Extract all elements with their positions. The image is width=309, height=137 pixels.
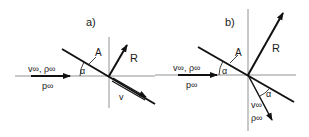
panel-a: a) v∞, ρ∞ p∞ A α R v	[15, 16, 155, 108]
angle-label: α	[80, 66, 85, 76]
plate-label: A	[235, 47, 242, 58]
plate-leader	[89, 57, 96, 64]
freestream-velocity-density-label: v∞, ρ∞	[28, 64, 55, 74]
angle-label: α	[222, 66, 227, 76]
panel-b-label: b)	[225, 16, 235, 28]
outflow-density-label: ρ∞	[251, 113, 263, 123]
freestream-pressure-label: p∞	[42, 81, 53, 91]
panel-b: b) v∞, ρ∞ p∞ A α α R v∞ ρ∞	[155, 9, 296, 131]
velocity-arrow-line	[112, 81, 145, 100]
outflow-velocity-label: v∞	[251, 100, 262, 110]
plate-label: A	[95, 47, 102, 58]
velocity-label: v	[119, 92, 124, 102]
diagram-canvas: a) v∞, ρ∞ p∞ A α R v b) v∞, ρ∞ p∞ A α α …	[0, 0, 309, 137]
force-label: R	[272, 42, 280, 54]
force-label: R	[130, 52, 138, 64]
freestream-pressure-label: p∞	[186, 80, 197, 90]
freestream-velocity-density-label: v∞, ρ∞	[173, 63, 200, 73]
panel-a-label: a)	[86, 16, 96, 28]
plate-line	[62, 49, 155, 104]
angle-label-2: α	[266, 89, 271, 99]
velocity-arrow	[113, 78, 146, 97]
resultant-force-arrow	[109, 45, 127, 76]
